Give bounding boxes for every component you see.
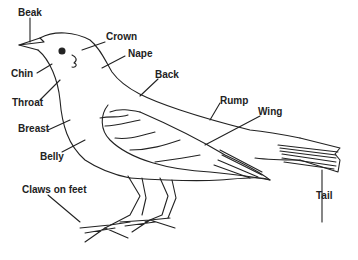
beak-shape [19,38,44,45]
label-crown: Crown [106,32,137,42]
label-tail: Tail [316,191,332,201]
label-breast: Breast [18,124,49,134]
label-nape: Nape [128,49,152,59]
label-throat: Throat [12,98,43,108]
leader-claws [48,195,80,222]
label-rump: Rump [220,96,248,106]
label-claws-on-feet: Claws on feet [22,185,86,195]
leader-chin [37,64,52,73]
label-back: Back [155,70,179,80]
leader-throat [40,80,60,100]
label-belly: Belly [40,152,64,162]
eye [59,48,65,54]
leader-rump [210,103,220,120]
leader-back [140,79,158,96]
leader-belly [62,140,85,152]
bird-anatomy-diagram: Beak Crown Nape Chin Back Throat Rump Wi… [0,0,358,260]
label-chin: Chin [11,69,33,79]
label-wing: Wing [258,107,282,117]
bird-illustration [0,0,358,260]
leader-nape [102,56,125,68]
label-beak: Beak [18,8,42,18]
leader-breast [48,120,70,130]
